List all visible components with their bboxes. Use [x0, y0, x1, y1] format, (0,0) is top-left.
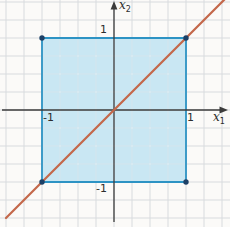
tick-label-y-positive: 1 — [100, 24, 107, 35]
figure-canvas: x2 x1 1 -1 1 -1 — [0, 0, 230, 227]
vertex-dot — [183, 35, 188, 40]
tick-label-y-negative: -1 — [96, 183, 107, 194]
x-axis-label: x1 — [213, 112, 225, 123]
vertex-dot — [39, 179, 44, 184]
tick-label-x-negative: -1 — [43, 112, 54, 123]
vertex-dot — [39, 35, 44, 40]
tick-label-x-positive: 1 — [187, 112, 194, 123]
y-axis-label: x2 — [119, 0, 131, 11]
vertex-dot — [183, 179, 188, 184]
plot-svg — [0, 0, 230, 227]
